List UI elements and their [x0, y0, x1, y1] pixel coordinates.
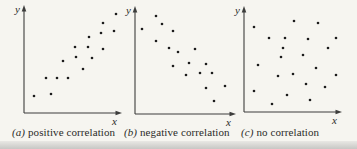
x-axis-label: x [331, 114, 337, 126]
data-point [172, 65, 175, 68]
scatter-plot-no-correlation: yx [236, 0, 344, 128]
data-point [335, 37, 338, 40]
data-point [102, 48, 105, 51]
data-point [56, 77, 59, 80]
data-point [305, 83, 308, 86]
data-point [113, 30, 116, 33]
figure-correlation-scatterplots: yx yx yx (a) positive correlation (b) ne… [0, 0, 357, 149]
data-point [307, 38, 310, 41]
data-point [161, 23, 164, 26]
data-point [317, 22, 320, 25]
caption-panel-b: (b) negative correlation [124, 126, 230, 139]
data-point [205, 63, 208, 66]
data-point [67, 77, 70, 80]
data-point [315, 67, 318, 70]
scatter-plot-negative-correlation: yx [122, 0, 237, 128]
data-point [75, 56, 78, 59]
data-point [211, 72, 214, 75]
data-point [50, 93, 53, 96]
data-point [141, 28, 144, 31]
data-point [253, 26, 256, 29]
data-point [177, 51, 180, 54]
scatter-plot-positive-correlation: yx [4, 0, 122, 128]
y-axis-label: y [234, 4, 240, 16]
data-point [213, 100, 216, 103]
data-point [188, 62, 191, 65]
data-point [194, 48, 197, 51]
data-point [102, 22, 105, 25]
data-point [74, 46, 77, 49]
data-point [282, 47, 285, 50]
caption-text-c: no correlation [256, 126, 319, 138]
y-axis-arrow-icon [133, 6, 138, 13]
page-edge-shadow [0, 141, 357, 149]
data-point [293, 20, 296, 23]
data-point [199, 72, 202, 75]
y-axis-label: y [125, 4, 131, 16]
data-point [280, 56, 283, 59]
data-point [284, 37, 287, 40]
data-point [168, 47, 171, 50]
data-point [224, 85, 227, 88]
y-axis-arrow-icon [22, 5, 27, 12]
data-point [271, 103, 274, 106]
data-point [82, 68, 85, 71]
caption-letter-c: (c) [241, 126, 254, 138]
data-point [155, 15, 158, 18]
data-point [253, 90, 256, 93]
data-point [62, 60, 65, 63]
caption-panel-a: (a) positive correlation [12, 126, 115, 139]
data-point [115, 13, 118, 16]
data-point [327, 47, 330, 50]
data-point [286, 94, 289, 97]
data-point [155, 40, 158, 43]
data-point [309, 99, 312, 102]
y-axis-arrow-icon [242, 6, 247, 13]
data-point [257, 64, 260, 67]
data-point [87, 46, 90, 49]
data-point [205, 87, 208, 90]
caption-panel-c: (c) no correlation [241, 126, 319, 139]
data-point [172, 30, 175, 33]
data-point [277, 75, 280, 78]
data-point [335, 74, 338, 77]
data-point [292, 73, 295, 76]
caption-letter-a: (a) [12, 126, 25, 138]
data-point [302, 54, 305, 57]
data-point [33, 95, 36, 98]
data-point [185, 74, 188, 77]
y-axis-label: y [14, 3, 20, 15]
data-point [45, 77, 48, 80]
data-point [324, 86, 327, 89]
data-point [268, 37, 271, 40]
caption-text-a: positive correlation [28, 126, 115, 138]
data-point [88, 36, 91, 39]
caption-letter-b: (b) [124, 126, 137, 138]
caption-text-b: negative correlation [140, 126, 230, 138]
data-point [100, 32, 103, 35]
data-point [91, 57, 94, 60]
